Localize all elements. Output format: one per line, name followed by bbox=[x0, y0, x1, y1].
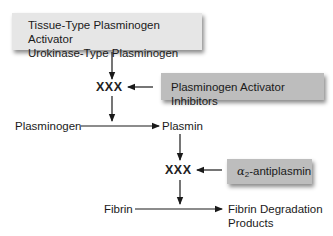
inhibitors-box: Plasminogen Activator Inhibitors bbox=[161, 73, 324, 100]
fdp-line-2: Products bbox=[228, 216, 323, 230]
fdp-line-1: Fibrin Degradation bbox=[228, 202, 323, 216]
alpha-symbol: α bbox=[237, 164, 245, 178]
antiplasmin-label: -antiplasmin bbox=[249, 165, 311, 177]
antiplasmin-box: α2-antiplasmin bbox=[227, 159, 312, 184]
xxx-lower-node: XXX bbox=[165, 163, 192, 177]
activators-line-1: Tissue-Type Plasminogen Activator bbox=[28, 18, 202, 46]
xxx-upper-node: XXX bbox=[96, 80, 123, 94]
activators-line-2: Urokinase-Type Plasminogen bbox=[28, 46, 202, 60]
plasminogen-label: Plasminogen bbox=[15, 119, 81, 133]
plasmin-label: Plasmin bbox=[162, 119, 203, 133]
activators-box: Tissue-Type Plasminogen Activator Urokin… bbox=[12, 13, 202, 50]
fibrin-label: Fibrin bbox=[104, 202, 133, 216]
fdp-label: Fibrin Degradation Products bbox=[228, 202, 323, 230]
